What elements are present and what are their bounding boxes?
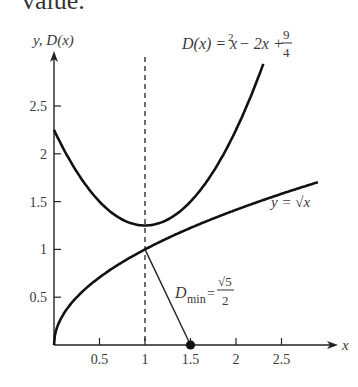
svg-text:− 2x +: − 2x + [235,35,288,52]
d-equation-label: D(x) = x 2 − 2x + 9 4 [181,27,292,60]
x-tick-label: 1 [142,352,149,367]
svg-text:2: 2 [228,31,234,43]
svg-text:min: min [187,292,206,306]
sqrt-curve-label: y = √x [269,194,311,210]
x-tick-label: 0.5 [91,352,109,367]
curve-distance-function [54,64,263,226]
svg-text:9: 9 [283,27,290,42]
x-tick-label: 2 [233,352,240,367]
y-tick-label: 1.5 [30,195,48,210]
svg-text:D: D [174,284,187,301]
svg-text:4: 4 [283,45,290,60]
x-tick-label: 1.5 [182,352,200,367]
svg-text:√5: √5 [218,274,232,289]
svg-text:=: = [207,286,215,301]
y-axis-label: y, D(x) [31,32,74,49]
y-tick-label: 1 [40,242,47,257]
chart-figure: 0.511.522.5 0.511.522.5 y, D(x) x D(x) =… [0,0,358,387]
y-tick-label: 2 [40,147,47,162]
x-axis-label: x [341,337,349,353]
dmin-label: D min = √5 2 [174,274,234,308]
y-tick-label: 2.5 [30,99,48,114]
x-tick-label: 2.5 [273,352,291,367]
y-ticks: 0.511.522.5 [30,99,62,305]
y-tick-label: 0.5 [30,290,48,305]
svg-text:2: 2 [222,293,229,308]
point-1-5-0 [186,340,195,349]
